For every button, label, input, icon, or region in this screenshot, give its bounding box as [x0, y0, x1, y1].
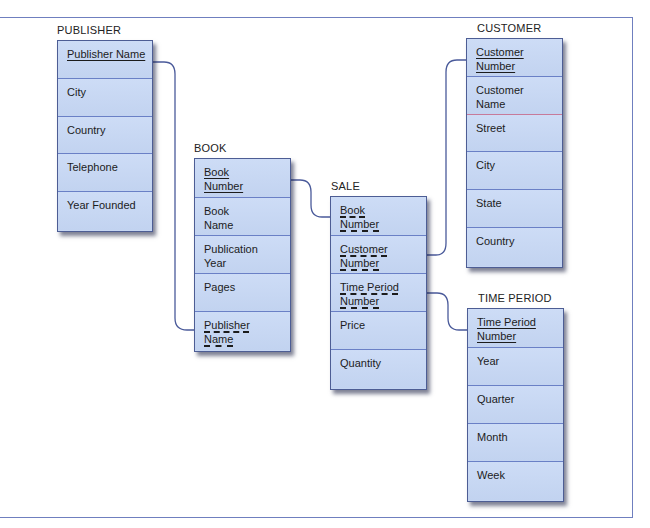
attribute-customer-name[interactable]: Customer Name	[467, 77, 562, 115]
entity-time-period[interactable]: Time Period Number Year Quarter Month We…	[467, 308, 564, 502]
attribute-city[interactable]: City	[467, 152, 562, 190]
attribute-label: Publication Year	[204, 242, 274, 270]
attribute-country[interactable]: Country	[467, 228, 562, 266]
attribute-pages[interactable]: Pages	[195, 274, 290, 312]
entity-sale[interactable]: Book Number Customer Number Time Period …	[330, 196, 427, 390]
attribute-week[interactable]: Week	[468, 462, 563, 500]
foreign-key-label: Publisher Name	[204, 318, 264, 346]
attribute-label: State	[476, 197, 502, 209]
attribute-label: Country	[476, 235, 515, 247]
foreign-key-label: Time Period Number	[340, 280, 416, 308]
attribute-book-number[interactable]: Book Number	[195, 159, 290, 198]
attribute-book-name[interactable]: Book Name	[195, 198, 290, 236]
attribute-quantity[interactable]: Quantity	[331, 350, 426, 388]
attribute-label: Telephone	[67, 161, 118, 173]
attribute-label: Month	[477, 431, 508, 443]
entity-title-book: BOOK	[194, 142, 227, 154]
attribute-book-number-fk[interactable]: Book Number	[331, 197, 426, 236]
attribute-quarter[interactable]: Quarter	[468, 386, 563, 424]
attribute-month[interactable]: Month	[468, 424, 563, 462]
attribute-year-founded[interactable]: Year Founded	[58, 192, 152, 230]
entity-title-sale: SALE	[331, 180, 360, 192]
entity-title-customer: CUSTOMER	[477, 22, 541, 34]
attribute-state[interactable]: State	[467, 190, 562, 228]
attribute-price[interactable]: Price	[331, 312, 426, 350]
primary-key-label: Customer Number	[476, 45, 531, 73]
attribute-label: Year Founded	[67, 199, 136, 211]
entity-book[interactable]: Book Number Book Name Publication Year P…	[194, 158, 291, 352]
entity-title-publisher: PUBLISHER	[57, 24, 121, 36]
attribute-label: Street	[476, 122, 505, 134]
attribute-time-period-number-fk[interactable]: Time Period Number	[331, 274, 426, 312]
attribute-city[interactable]: City	[58, 79, 152, 117]
attribute-publication-year[interactable]: Publication Year	[195, 236, 290, 274]
attribute-label: City	[476, 159, 495, 171]
attribute-telephone[interactable]: Telephone	[58, 154, 152, 192]
attribute-label: Quantity	[340, 357, 381, 369]
attribute-year[interactable]: Year	[468, 348, 563, 386]
attribute-publisher-name-fk[interactable]: Publisher Name	[195, 312, 290, 350]
attribute-label: Week	[477, 469, 505, 481]
attribute-street[interactable]: Street	[467, 115, 562, 152]
primary-key-label: Publisher Name	[67, 48, 145, 60]
attribute-label: Price	[340, 319, 365, 331]
attribute-label: Quarter	[477, 393, 514, 405]
attribute-time-period-number[interactable]: Time Period Number	[468, 309, 563, 348]
entity-title-time-period: TIME PERIOD	[478, 292, 552, 304]
attribute-label: Pages	[204, 281, 235, 293]
foreign-key-label: Book Number	[340, 203, 388, 231]
attribute-label: Book Name	[204, 204, 252, 232]
entity-publisher[interactable]: Publisher Name City Country Telephone Ye…	[57, 40, 153, 232]
attribute-publisher-name[interactable]: Publisher Name	[58, 41, 152, 79]
entity-customer[interactable]: Customer Number Customer Name Street Cit…	[466, 38, 563, 268]
attribute-label: Year	[477, 355, 499, 367]
primary-key-label: Time Period Number	[477, 315, 553, 343]
attribute-label: City	[67, 86, 86, 98]
foreign-key-label: Customer Number	[340, 242, 395, 270]
attribute-customer-number-fk[interactable]: Customer Number	[331, 236, 426, 274]
attribute-country[interactable]: Country	[58, 117, 152, 154]
primary-key-label: Book Number	[204, 165, 252, 193]
attribute-label: Customer Name	[476, 83, 531, 111]
attribute-label: Country	[67, 124, 106, 136]
attribute-customer-number[interactable]: Customer Number	[467, 39, 562, 77]
